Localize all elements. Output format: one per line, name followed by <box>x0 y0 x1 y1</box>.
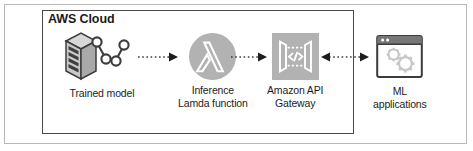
amazon-api-gateway-icon <box>272 33 319 80</box>
node-amazon-api-gateway: Amazon API Gateway <box>267 33 323 109</box>
node-label-amazon-api-gateway: Amazon API Gateway <box>267 84 323 109</box>
node-ml-applications: ML applications <box>373 32 427 110</box>
aws-cloud-label: AWS Cloud <box>48 12 114 26</box>
node-label-trained-model: Trained model <box>70 87 135 100</box>
connector-apigw-to-mlapps <box>320 51 370 63</box>
connector-lambda-to-apigw <box>231 52 269 62</box>
server-with-node-chain-icon <box>56 31 148 83</box>
diagram-screenshot: AWS Cloud <box>0 0 473 151</box>
node-label-inference-lambda-function: Inference Lamda function <box>178 84 248 109</box>
aws-lambda-icon <box>189 33 236 80</box>
connector-model-to-lambda <box>138 52 180 62</box>
node-trained-model: Trained model <box>56 31 148 100</box>
browser-window-gears-icon <box>375 32 424 81</box>
node-inference-lambda-function: Inference Lamda function <box>178 33 248 109</box>
node-label-ml-applications: ML applications <box>373 85 427 110</box>
